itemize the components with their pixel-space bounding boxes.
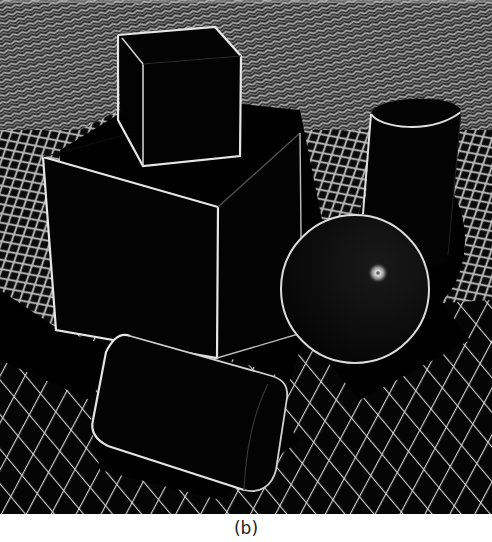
sphere	[281, 215, 429, 363]
rendered-scene-figure	[0, 0, 492, 514]
figure-caption: (b)	[0, 514, 492, 542]
small-cube	[118, 27, 241, 166]
scene-canvas	[0, 0, 492, 514]
